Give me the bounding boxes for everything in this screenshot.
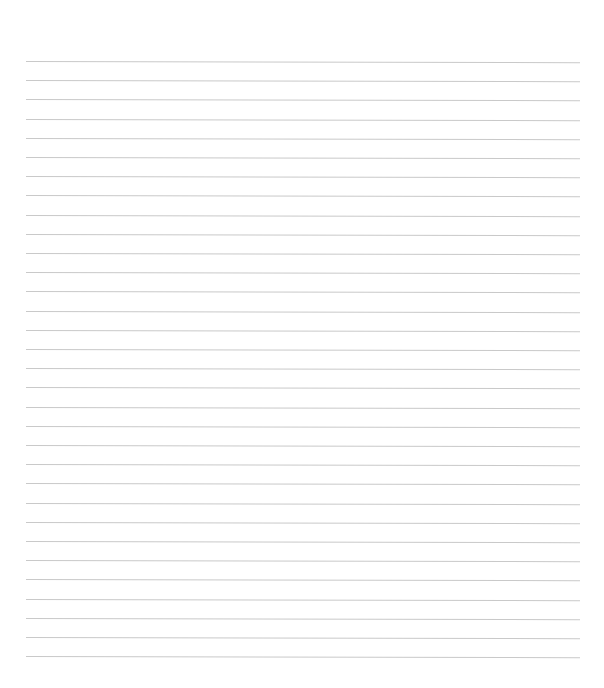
- ruled-line: [26, 119, 580, 121]
- ruled-line: [26, 407, 580, 409]
- ruled-line: [26, 99, 580, 101]
- ruled-line: [26, 541, 580, 543]
- ruled-line: [26, 272, 580, 274]
- ruled-line: [26, 253, 580, 255]
- ruled-paper-sheet: [0, 0, 604, 688]
- ruled-line: [26, 311, 580, 313]
- ruled-line: [26, 483, 580, 485]
- ruled-line: [26, 656, 580, 658]
- ruled-line: [26, 599, 580, 601]
- ruled-line: [26, 291, 580, 293]
- ruled-line: [26, 618, 580, 620]
- ruled-line: [26, 138, 580, 140]
- ruled-line: [26, 637, 580, 639]
- ruled-line: [26, 560, 580, 562]
- ruled-line: [26, 330, 580, 332]
- ruled-line: [26, 503, 580, 505]
- ruled-line: [26, 195, 580, 197]
- ruled-line: [26, 349, 580, 351]
- ruled-line: [26, 579, 580, 581]
- ruled-line: [26, 80, 580, 82]
- ruled-line: [26, 387, 580, 389]
- ruled-line: [26, 215, 580, 217]
- ruled-line: [26, 157, 580, 159]
- ruled-line: [26, 464, 580, 466]
- ruled-line: [26, 61, 580, 63]
- ruled-line: [26, 426, 580, 428]
- ruled-line: [26, 445, 580, 447]
- ruled-line: [26, 522, 580, 524]
- ruled-line: [26, 234, 580, 236]
- ruled-line: [26, 368, 580, 370]
- ruled-line: [26, 176, 580, 178]
